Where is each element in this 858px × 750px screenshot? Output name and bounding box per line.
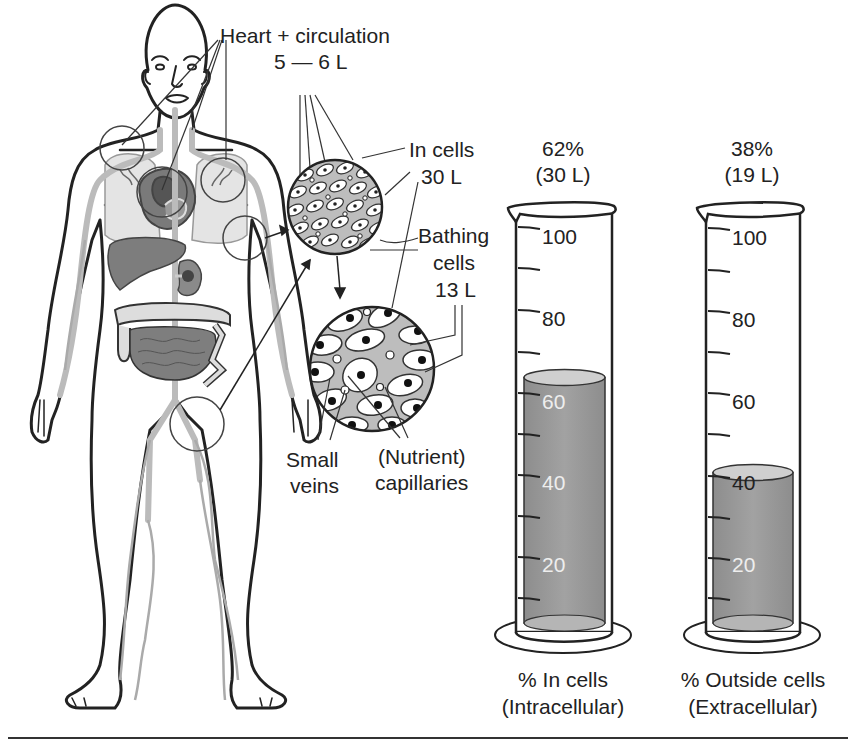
tick-b-80: 80 bbox=[732, 309, 755, 331]
small-veins-label-line2: veins bbox=[290, 473, 339, 498]
body-water-diagram: Heart + circulation 5 — 6 L In cells 30 … bbox=[0, 0, 858, 750]
bathing-cells-label-line2: cells bbox=[433, 250, 475, 275]
cylinder-extracellular bbox=[684, 202, 820, 653]
illustration bbox=[0, 0, 858, 750]
capillaries-label-line2: capillaries bbox=[375, 470, 468, 495]
tick-a-20: 20 bbox=[542, 554, 565, 576]
capillaries-label-line1: (Nutrient) bbox=[378, 444, 466, 469]
bathing-cells-label-line1: Bathing bbox=[418, 223, 489, 248]
tick-a-100: 100 bbox=[542, 226, 577, 248]
tissue-circle-top bbox=[285, 160, 389, 254]
cylinder-intracellular bbox=[495, 202, 631, 653]
heart-circulation-label: Heart + circulation bbox=[220, 23, 390, 48]
heart-volume-label: 5 — 6 L bbox=[274, 49, 348, 74]
intracellular-percent: 62% bbox=[513, 136, 613, 161]
extracellular-percent: 38% bbox=[702, 136, 802, 161]
extracellular-volume: (19 L) bbox=[702, 162, 802, 187]
tick-a-60: 60 bbox=[542, 391, 565, 413]
intestines bbox=[115, 303, 230, 385]
tick-a-40: 40 bbox=[542, 472, 565, 494]
intracellular-caption-line2: (Intracellular) bbox=[488, 694, 638, 719]
intracellular-volume: (30 L) bbox=[513, 162, 613, 187]
tick-a-80: 80 bbox=[542, 308, 565, 330]
in-cells-label: In cells bbox=[409, 137, 474, 162]
small-veins-label-line1: Small bbox=[286, 447, 339, 472]
in-cells-volume-label: 30 L bbox=[421, 164, 462, 189]
intracellular-caption-line1: % In cells bbox=[488, 667, 638, 692]
tick-b-20: 20 bbox=[732, 554, 755, 576]
tick-b-100: 100 bbox=[732, 227, 767, 249]
tick-b-60: 60 bbox=[732, 391, 755, 413]
extracellular-caption-line2: (Extracellular) bbox=[668, 694, 838, 719]
extracellular-caption-line1: % Outside cells bbox=[668, 667, 838, 692]
tissue-circle-bottom bbox=[302, 297, 437, 433]
tick-b-40: 40 bbox=[732, 472, 755, 494]
head-outline bbox=[143, 5, 210, 118]
bottom-rule bbox=[8, 737, 848, 739]
bathing-cells-volume-label: 13 L bbox=[435, 277, 476, 302]
